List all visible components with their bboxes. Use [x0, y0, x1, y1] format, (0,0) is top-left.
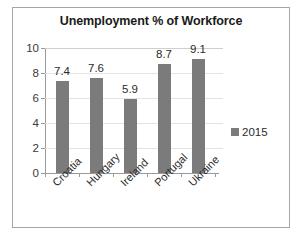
value-tick-10 — [41, 48, 45, 49]
y-axis-label-4: 4 — [33, 117, 39, 129]
category-tick-4 — [181, 173, 182, 177]
bar-hungary[interactable] — [90, 78, 103, 173]
bar-value-croatia: 7.4 — [54, 65, 70, 77]
value-tick-6 — [41, 98, 45, 99]
category-tick-0 — [45, 173, 46, 177]
bar-value-ukraine: 9.1 — [190, 43, 206, 55]
bar-value-portugal: 8.7 — [156, 48, 172, 60]
y-axis-label-6: 6 — [33, 92, 39, 104]
plot-canvas: 02468107.4Croatia7.6Hungary5.9Ireland8.7… — [45, 48, 215, 173]
value-axis-line — [45, 48, 46, 173]
bar-croatia[interactable] — [56, 81, 69, 174]
bar-value-hungary: 7.6 — [88, 62, 104, 74]
legend-label-2015: 2015 — [242, 126, 268, 138]
plot-area: 02468107.4Croatia7.6Hungary5.9Ireland8.7… — [45, 48, 215, 173]
category-tick-1 — [79, 173, 80, 177]
y-axis-label-0: 0 — [33, 167, 39, 179]
chart-legend: 2015 — [231, 126, 268, 138]
category-tick-5 — [215, 173, 216, 177]
chart-frame: Unemployment % of Workforce 02468107.4Cr… — [12, 7, 290, 228]
legend-swatch-icon — [231, 128, 239, 136]
value-tick-4 — [41, 123, 45, 124]
bar-portugal[interactable] — [158, 64, 171, 173]
y-axis-label-8: 8 — [33, 67, 39, 79]
y-axis-label-10: 10 — [26, 42, 39, 54]
y-axis-label-2: 2 — [33, 142, 39, 154]
chart-title: Unemployment % of Workforce — [13, 14, 289, 28]
bar-ukraine[interactable] — [192, 59, 205, 173]
value-tick-2 — [41, 148, 45, 149]
category-tick-3 — [147, 173, 148, 177]
value-tick-8 — [41, 73, 45, 74]
category-tick-2 — [113, 173, 114, 177]
bar-value-ireland: 5.9 — [122, 83, 138, 95]
